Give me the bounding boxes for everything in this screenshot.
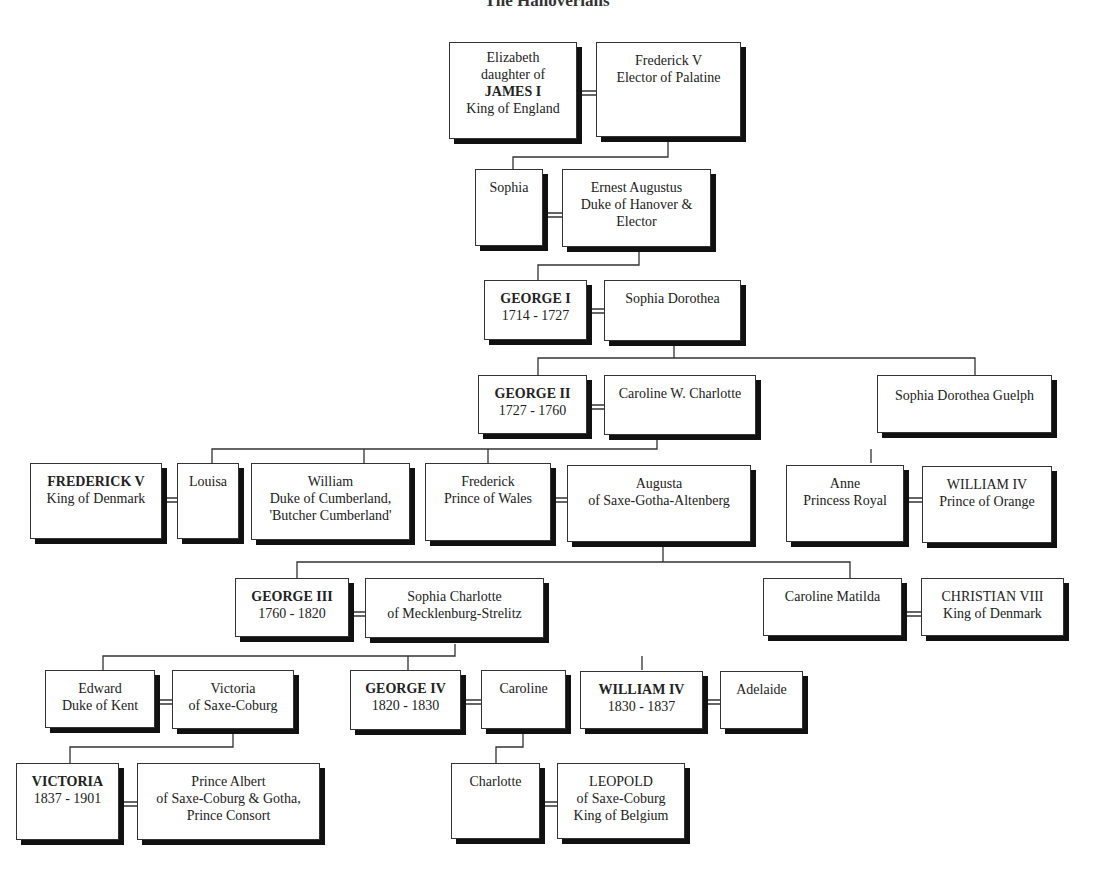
person-box-william-cumberland: William Duke of Cumberland, 'Butcher Cum… — [251, 463, 410, 540]
person-box-leopold: LEOPOLD of Saxe-Coburg King of Belgium — [557, 763, 685, 839]
person-box-george3: GEORGE III 1760 - 1820 — [235, 578, 349, 637]
person-box-george4: GEORGE IV 1820 - 1830 — [350, 670, 461, 730]
person-box-adelaide: Adelaide — [720, 671, 803, 729]
reign-dates: 1714 - 1727 — [485, 307, 586, 324]
person-name: LEOPOLD — [558, 773, 684, 790]
person-name: Prince Albert — [138, 773, 319, 790]
person-title: Elector of Palatine — [597, 69, 740, 86]
monarch-name: GEORGE I — [485, 290, 586, 307]
person-box-william-orange: WILLIAM IV Prince of Orange — [922, 466, 1052, 543]
person-box-christian8: CHRISTIAN VIII King of Denmark — [921, 578, 1064, 636]
person-name: CHRISTIAN VIII — [922, 588, 1063, 605]
person-title: Prince of Wales — [426, 490, 550, 507]
person-name: Frederick — [426, 473, 550, 490]
person-box-caroline-matilda: Caroline Matilda — [763, 578, 902, 636]
person-box-frederick-palatine: Frederick V Elector of Palatine — [596, 42, 741, 137]
person-box-sophia: Sophia — [475, 169, 543, 246]
reign-dates: 1837 - 1901 — [17, 790, 118, 807]
person-box-edward-kent: Edward Duke of Kent — [45, 670, 155, 728]
monarch-name: VICTORIA — [17, 773, 118, 790]
person-title: Duke of Kent — [46, 697, 154, 714]
person-name: Frederick V — [597, 52, 740, 69]
person-name: Edward — [46, 680, 154, 697]
person-box-victoria: VICTORIA 1837 - 1901 — [16, 763, 119, 840]
reign-dates: 1760 - 1820 — [236, 605, 348, 622]
person-name: Elizabeth — [450, 49, 576, 66]
person-title: King of Belgium — [558, 807, 684, 824]
reign-dates: 1727 - 1760 — [479, 402, 586, 419]
person-name: Louisa — [178, 473, 238, 490]
person-title: Prince of Orange — [923, 493, 1051, 510]
person-box-augusta: Augusta of Saxe-Gotha-Altenberg — [567, 465, 751, 542]
person-box-sophia-charlotte: Sophia Charlotte of Mecklenburg-Strelitz — [365, 578, 544, 638]
person-box-anne: Anne Princess Royal — [786, 465, 904, 542]
person-nickname: 'Butcher Cumberland' — [252, 507, 409, 524]
person-name: Caroline Matilda — [764, 588, 901, 605]
person-box-frederick-denmark: FREDERICK V King of Denmark — [30, 463, 162, 539]
reign-dates: 1830 - 1837 — [581, 698, 702, 715]
person-title: of Saxe-Coburg — [173, 697, 293, 714]
person-box-elizabeth: Elizabeth daughter of JAMES I King of En… — [449, 42, 577, 139]
person-name: Sophia Charlotte — [366, 588, 543, 605]
person-name: Sophia Dorothea Guelph — [878, 387, 1051, 404]
person-title: Duke of Cumberland, — [252, 490, 409, 507]
person-box-victoria-coburg: Victoria of Saxe-Coburg — [172, 670, 294, 729]
person-box-sophia-dorothea: Sophia Dorothea — [604, 280, 741, 341]
person-box-charlotte: Charlotte — [451, 763, 540, 839]
person-name: William — [252, 473, 409, 490]
person-box-louisa: Louisa — [177, 463, 239, 539]
person-title: King of Denmark — [922, 605, 1063, 622]
person-title: Elector — [563, 213, 710, 230]
person-name: Adelaide — [721, 681, 802, 698]
person-box-william4: WILLIAM IV 1830 - 1837 — [580, 671, 703, 729]
person-box-albert: Prince Albert of Saxe-Coburg & Gotha, Pr… — [137, 763, 320, 840]
person-title: Princess Royal — [787, 492, 903, 509]
monarch-name: GEORGE III — [236, 588, 348, 605]
person-name: Caroline — [482, 680, 565, 697]
monarch-name: FREDERICK V — [31, 473, 161, 490]
person-title: of Saxe-Coburg & Gotha, — [138, 790, 319, 807]
person-title: of Mecklenburg-Strelitz — [366, 605, 543, 622]
person-title: of Saxe-Coburg — [558, 790, 684, 807]
reign-dates: 1820 - 1830 — [351, 697, 460, 714]
person-title: King of England — [450, 100, 576, 117]
person-title: Prince Consort — [138, 807, 319, 824]
person-name: Caroline W. Charlotte — [605, 385, 755, 402]
person-name: Sophia Dorothea — [605, 290, 740, 307]
person-name-bold: JAMES I — [450, 83, 576, 100]
person-title: of Saxe-Gotha-Altenberg — [568, 492, 750, 509]
monarch-name: GEORGE II — [479, 385, 586, 402]
person-name: Augusta — [568, 475, 750, 492]
person-box-caroline-charlotte: Caroline W. Charlotte — [604, 375, 756, 435]
person-name: WILLIAM IV — [923, 476, 1051, 493]
person-box-sophia-dorothea-guelph: Sophia Dorothea Guelph — [877, 375, 1052, 433]
person-relation: daughter of — [450, 66, 576, 83]
person-box-caroline: Caroline — [481, 670, 566, 729]
person-box-george1: GEORGE I 1714 - 1727 — [484, 280, 587, 340]
monarch-name: GEORGE IV — [351, 680, 460, 697]
person-title: Duke of Hanover & — [563, 196, 710, 213]
person-name: Ernest Augustus — [563, 179, 710, 196]
person-name: Victoria — [173, 680, 293, 697]
monarch-name: WILLIAM IV — [581, 681, 702, 698]
person-name: Anne — [787, 475, 903, 492]
person-title: King of Denmark — [31, 490, 161, 507]
person-box-frederick-wales: Frederick Prince of Wales — [425, 463, 551, 541]
person-box-george2: GEORGE II 1727 - 1760 — [478, 375, 587, 434]
person-name: Sophia — [476, 179, 542, 196]
person-box-ernest-augustus: Ernest Augustus Duke of Hanover & Electo… — [562, 169, 711, 247]
person-name: Charlotte — [452, 773, 539, 790]
